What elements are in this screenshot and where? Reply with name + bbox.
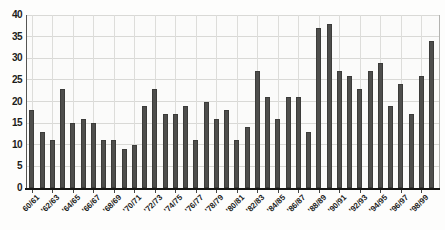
- bar: [409, 114, 414, 188]
- bar: [306, 132, 311, 188]
- x-axis-tick-label: '98/99: [409, 193, 431, 215]
- bar: [347, 76, 352, 188]
- bar: [111, 140, 116, 188]
- bar: [234, 140, 239, 188]
- x-axis-tick: [257, 190, 258, 193]
- bar: [316, 28, 321, 188]
- bar: [224, 110, 229, 188]
- bar: [368, 71, 373, 188]
- x-axis-tick: [155, 190, 156, 193]
- bar: [337, 71, 342, 188]
- bar: [122, 149, 127, 188]
- x-axis-tick-label: '94/95: [368, 193, 390, 215]
- x-axis-tick: [32, 190, 33, 193]
- x-axis-tick-label: '84/85: [265, 193, 287, 215]
- bar: [152, 89, 157, 188]
- x-axis-tick-label: '96/97: [388, 193, 410, 215]
- bar: [255, 71, 260, 188]
- y-axis-tick-label: 30: [0, 53, 22, 63]
- bar: [214, 119, 219, 188]
- bar: [296, 97, 301, 188]
- y-axis-tick-label: 20: [0, 97, 22, 107]
- x-axis-tick: [421, 190, 422, 193]
- x-axis-tick-label: '72/73: [142, 193, 164, 215]
- bar: [286, 97, 291, 188]
- bar: [388, 106, 393, 188]
- bar: [275, 119, 280, 188]
- x-axis-tick-label: '86/87: [286, 193, 308, 215]
- y-axis-tick-label: 35: [0, 32, 22, 42]
- x-axis-tick-label: '88/89: [306, 193, 328, 215]
- h-gridline: [27, 15, 439, 16]
- x-axis-tick-label: '82/83: [245, 193, 267, 215]
- x-axis-tick: [196, 190, 197, 193]
- h-gridline: [27, 58, 439, 59]
- x-axis-tick: [134, 190, 135, 193]
- x-axis-tick: [237, 190, 238, 193]
- x-axis-tick-label: '90/91: [327, 193, 349, 215]
- bar: [70, 123, 75, 188]
- bar: [132, 145, 137, 188]
- x-axis-tick: [93, 190, 94, 193]
- x-axis-tick: [339, 190, 340, 193]
- y-axis-tick-label: 0: [0, 183, 22, 193]
- x-axis-tick: [278, 190, 279, 193]
- bar: [183, 106, 188, 188]
- bar: [142, 106, 147, 188]
- x-axis-tick-label: '80/81: [224, 193, 246, 215]
- bar: [101, 140, 106, 188]
- bar: [50, 140, 55, 188]
- bar: [81, 119, 86, 188]
- x-axis-tick: [380, 190, 381, 193]
- x-axis-tick: [360, 190, 361, 193]
- x-axis-tick-label: '74/75: [163, 193, 185, 215]
- x-axis-tick: [52, 190, 53, 193]
- y-axis-tick-label: 5: [0, 161, 22, 171]
- x-axis-tick: [216, 190, 217, 193]
- bar: [60, 89, 65, 188]
- x-axis-tick: [175, 190, 176, 193]
- bar: [265, 97, 270, 188]
- bar: [173, 114, 178, 188]
- bar: [357, 89, 362, 188]
- bar: [91, 123, 96, 188]
- x-axis-tick-label: '62/63: [40, 193, 62, 215]
- bar: [398, 84, 403, 188]
- bar: [327, 24, 332, 188]
- x-axis-line: [25, 188, 440, 190]
- bar: [40, 132, 45, 188]
- bar: [204, 102, 209, 189]
- x-axis-tick: [319, 190, 320, 193]
- bar: [29, 110, 34, 188]
- bar-chart: 0510152025303540 60/61'62/63'64/65'66/67…: [0, 0, 445, 230]
- x-axis-tick-label: '66/67: [81, 193, 103, 215]
- x-axis-tick-label: 60/61: [21, 193, 42, 214]
- x-axis-tick-label: '78/79: [204, 193, 226, 215]
- y-axis-line: [26, 15, 27, 189]
- bar: [193, 140, 198, 188]
- x-axis-tick: [298, 190, 299, 193]
- y-axis-tick-label: 15: [0, 118, 22, 128]
- y-axis-tick-label: 25: [0, 75, 22, 85]
- y-axis-tick-label: 10: [0, 140, 22, 150]
- bar: [245, 127, 250, 188]
- x-axis-tick: [73, 190, 74, 193]
- x-axis-tick: [114, 190, 115, 193]
- h-gridline: [27, 36, 439, 37]
- bar: [429, 41, 434, 188]
- x-axis-tick: [401, 190, 402, 193]
- bar: [419, 76, 424, 188]
- bar: [163, 114, 168, 188]
- x-axis-tick-label: '92/93: [347, 193, 369, 215]
- x-axis-tick-label: '64/65: [60, 193, 82, 215]
- x-axis-tick-label: '70/71: [122, 193, 144, 215]
- x-axis-tick-label: '68/69: [101, 193, 123, 215]
- x-axis-tick-label: '76/77: [183, 193, 205, 215]
- bar: [378, 63, 383, 188]
- y-axis-tick-label: 40: [0, 10, 22, 20]
